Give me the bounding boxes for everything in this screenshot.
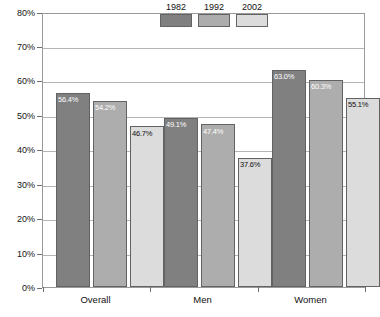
bar-men-2002[interactable] [238,158,272,287]
plot-area: 56.4% 54.2% 46.7% 49.1% 47.4% 37.6% 63.0… [42,13,365,288]
x-category-label-overall: Overall [42,295,149,305]
legend-item-1982[interactable]: 1982 [160,3,192,27]
x-axis-tick [150,287,151,292]
bar-overall-1992[interactable] [93,101,127,287]
bar-women-1992[interactable] [309,80,343,287]
legend-swatch-1992 [198,14,230,27]
bar-value-overall-2002: 46.7% [132,130,152,138]
y-tick-label: 80% [2,9,35,18]
bar-value-overall-1992: 54.2% [95,104,115,112]
y-tick-label: 0% [2,284,35,293]
bar-men-1982[interactable] [164,118,198,287]
legend-label-1992: 1992 [198,3,230,12]
y-tick-label: 70% [2,43,35,52]
gridline-70 [43,48,364,49]
y-tick-label: 20% [2,215,35,224]
bar-value-men-2002: 37.6% [240,161,260,169]
x-axis-tick [43,287,44,292]
x-axis-tick [258,287,259,292]
x-category-label-women: Women [257,295,364,305]
legend-item-1992[interactable]: 1992 [198,3,230,27]
y-tick-label: 30% [2,181,35,190]
bar-overall-1982[interactable] [56,93,90,287]
bar-women-2002[interactable] [346,98,380,287]
legend: 1982 1992 2002 [113,3,221,34]
bar-value-women-1982: 63.0% [274,73,294,81]
legend-swatch-2002 [236,14,268,27]
y-tick-label: 40% [2,146,35,155]
bar-value-women-2002: 55.1% [348,101,368,109]
legend-item-2002[interactable]: 2002 [236,3,268,27]
legend-swatch-1982 [160,14,192,27]
y-tick-label: 60% [2,77,35,86]
bar-value-overall-1982: 56.4% [58,96,78,104]
legend-label-1982: 1982 [160,3,192,12]
bar-overall-2002[interactable] [130,126,164,287]
bar-men-1992[interactable] [201,124,235,287]
y-tick-label: 50% [2,112,35,121]
x-category-label-men: Men [149,295,256,305]
bar-value-men-1982: 49.1% [166,121,186,129]
x-axis-tick [365,287,366,292]
bar-value-women-1992: 60.3% [311,83,331,91]
legend-label-2002: 2002 [236,3,268,12]
bar-women-1982[interactable] [272,70,306,287]
bar-value-men-1992: 47.4% [203,128,223,136]
y-tick-label: 10% [2,250,35,259]
